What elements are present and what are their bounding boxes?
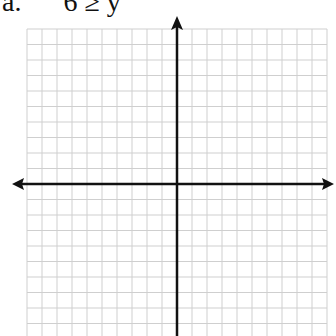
- coordinate-plane: [0, 0, 336, 336]
